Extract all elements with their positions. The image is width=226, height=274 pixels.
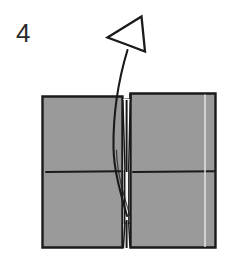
origami-diagram [0,0,226,274]
top-notch-shape [125,94,131,100]
left-crease-line [46,171,121,172]
fold-arrow-head [108,17,146,52]
folded-paper-group [43,94,216,249]
origami-figure: 4 [0,0,226,274]
right-crease-line [133,171,215,172]
